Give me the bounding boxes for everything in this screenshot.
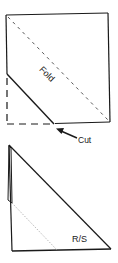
cut-label: Cut [78, 135, 92, 145]
arrow-up-left-icon [56, 128, 77, 138]
triangle-hypotenuse [9, 145, 111, 249]
fold-label: Fold [37, 64, 56, 83]
square-right-edge [108, 13, 110, 122]
step-1-folded-square: Fold [6, 13, 110, 124]
square-top-edge [6, 13, 108, 15]
square-left-edge-solid [6, 15, 7, 74]
cut-pointer: Cut [56, 128, 92, 145]
diagram-canvas: Fold Cut R/S [0, 0, 118, 263]
square-bottom-edge-solid [55, 122, 110, 124]
cut-line [7, 74, 54, 124]
dotted-guide-line [12, 203, 57, 250]
step-2-triangle: R/S [8, 145, 111, 251]
folding-diagram: Fold Cut R/S [0, 0, 118, 263]
triangle-bottom-edge [12, 249, 111, 251]
right-side-label: R/S [72, 234, 87, 244]
fold-line [8, 17, 108, 120]
